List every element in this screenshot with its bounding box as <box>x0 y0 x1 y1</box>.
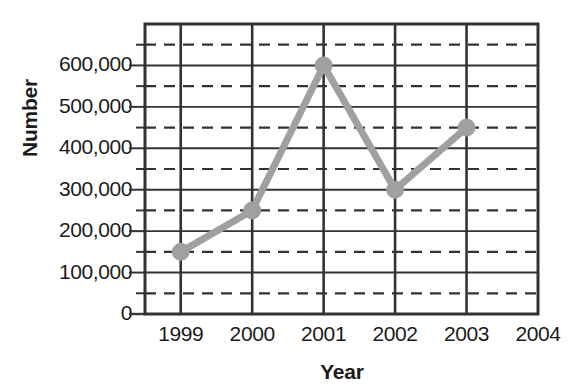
data-point-marker[interactable] <box>172 243 189 260</box>
y-axis-ticks <box>129 45 145 314</box>
line-chart: Number 0100,000200,000300,000400,000500,… <box>0 0 570 391</box>
data-point-marker[interactable] <box>458 119 475 136</box>
data-point-marker[interactable] <box>315 57 332 74</box>
data-point-marker[interactable] <box>244 202 261 219</box>
x-axis-title: Year <box>145 360 539 384</box>
minor-gridlines <box>145 45 538 294</box>
data-point-marker[interactable] <box>387 181 404 198</box>
plot-area <box>0 0 570 391</box>
